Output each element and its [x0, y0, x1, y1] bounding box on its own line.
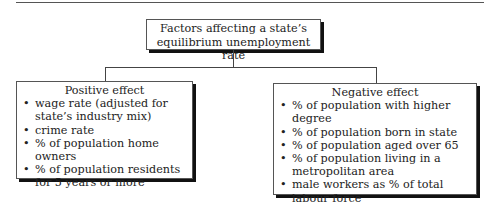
- list-item: crime rate: [21, 124, 188, 137]
- list-item: male workers as % of total labour force: [278, 178, 472, 204]
- root-title-line1: Factors affecting a state’s: [147, 22, 320, 36]
- positive-effect-heading: Positive effect: [21, 84, 188, 97]
- list-item: % of population aged over 65: [278, 139, 472, 152]
- negative-effect-list: % of population with higher degree % of …: [278, 99, 472, 204]
- list-item: wage rate (adjusted for state’s industry…: [21, 97, 188, 123]
- positive-effect-node: Positive effect wage rate (adjusted for …: [16, 81, 193, 179]
- top-rule: [16, 2, 484, 3]
- positive-effect-list: wage rate (adjusted for state’s industry…: [21, 97, 188, 189]
- negative-effect-heading: Negative effect: [278, 86, 472, 99]
- list-item: % of population with higher degree: [278, 99, 472, 125]
- connector-right-vertical: [376, 67, 377, 83]
- negative-effect-node: Negative effect % of population with hig…: [273, 83, 477, 195]
- connector-left-vertical: [105, 67, 106, 81]
- root-node: Factors affecting a state’s equilibrium …: [146, 19, 321, 50]
- list-item: % of population born in state: [278, 126, 472, 139]
- list-item: % of population living in a metropolitan…: [278, 152, 472, 178]
- list-item: % of population home owners: [21, 137, 188, 163]
- connector-root-vertical: [233, 50, 234, 67]
- connector-horizontal: [105, 67, 377, 68]
- list-item: % of population residents for 5 years or…: [21, 163, 188, 189]
